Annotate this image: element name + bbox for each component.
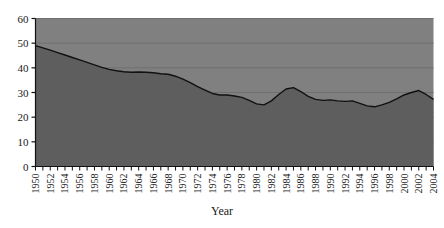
- y-axis-tick-label: 0: [23, 161, 29, 173]
- x-axis-tick-label: 1990: [325, 174, 336, 194]
- y-axis-tick-label: 50: [18, 37, 30, 49]
- x-axis-tick-label: 1976: [222, 174, 233, 194]
- x-axis-tick-label: 1966: [148, 174, 159, 194]
- chart-container: 0102030405060 19501952195419561958196019…: [0, 0, 444, 228]
- x-axis-tick-label: 1962: [118, 174, 129, 194]
- x-axis-tick-label: 2000: [399, 174, 410, 194]
- x-axis-tick-label: 1988: [310, 174, 321, 194]
- y-axis-tick-label: 40: [18, 62, 30, 74]
- x-axis-tick-label: 1982: [266, 174, 277, 194]
- x-axis-tick-label: 1970: [177, 174, 188, 194]
- area-chart: 0102030405060 19501952195419561958196019…: [0, 0, 444, 228]
- x-axis-tick-label: 1994: [354, 174, 365, 194]
- x-axis-tick-label: 1978: [236, 174, 247, 194]
- x-axis-tick-label: 1964: [133, 174, 144, 194]
- x-axis-tick-label: 1980: [251, 174, 262, 194]
- y-axis-tick-label: 10: [18, 136, 30, 148]
- x-axis-tick-label: 1986: [295, 174, 306, 194]
- x-axis-title: Year: [211, 204, 233, 218]
- x-axis-tick-label: 1952: [45, 174, 56, 194]
- x-axis-tick-label: 1960: [104, 174, 115, 194]
- x-axis-tick-label: 2002: [413, 174, 424, 194]
- x-axis-tick-label: 2004: [428, 174, 439, 194]
- y-axis-tick-label: 20: [18, 111, 30, 123]
- x-axis-tick-label: 1950: [30, 174, 41, 194]
- x-axis-tick-label: 1958: [89, 174, 100, 194]
- x-axis-tick-label: 1954: [59, 174, 70, 194]
- x-axis-tick-label: 1992: [340, 174, 351, 194]
- x-axis-tick-label: 1972: [192, 174, 203, 194]
- y-axis-tick-label: 30: [18, 87, 30, 99]
- x-axis-tick-label: 1974: [207, 174, 218, 194]
- x-axis-tick-label: 1956: [74, 174, 85, 194]
- y-axis-tick-label: 60: [18, 13, 30, 25]
- x-axis-tick-label: 1968: [163, 174, 174, 194]
- x-axis-tick-label: 1998: [384, 174, 395, 194]
- x-axis-tick-label: 1984: [281, 174, 292, 194]
- x-axis-tick-label: 1996: [369, 174, 380, 194]
